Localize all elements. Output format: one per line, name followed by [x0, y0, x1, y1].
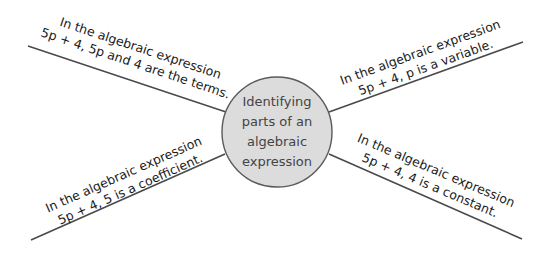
central-topic-line-4: expression	[222, 152, 332, 172]
central-topic-line-2: parts of an	[222, 112, 332, 132]
central-topic-text: Identifying parts of an algebraic expres…	[222, 92, 332, 172]
central-topic-line-3: algebraic	[222, 132, 332, 152]
